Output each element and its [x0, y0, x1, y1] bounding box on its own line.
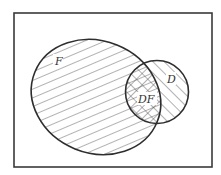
venn-diagram: F D DF — [0, 0, 221, 175]
label-f: F — [54, 55, 63, 68]
label-d: D — [166, 73, 176, 86]
label-df: DF — [137, 93, 155, 106]
